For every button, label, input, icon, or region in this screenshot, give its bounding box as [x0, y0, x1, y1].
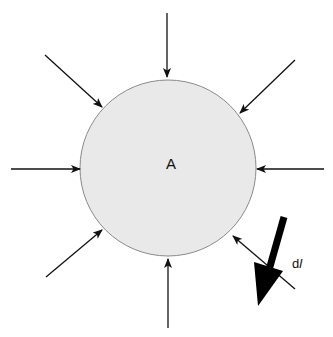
arrow-bottom-left-icon — [46, 230, 102, 277]
region-label: A — [166, 155, 176, 172]
arrow-top-right-icon — [240, 60, 295, 113]
element-label: dl — [292, 256, 303, 271]
arrow-top-left-icon — [45, 55, 102, 107]
element-arrow — [254, 217, 284, 306]
diagram-canvas: A dl — [0, 0, 333, 337]
